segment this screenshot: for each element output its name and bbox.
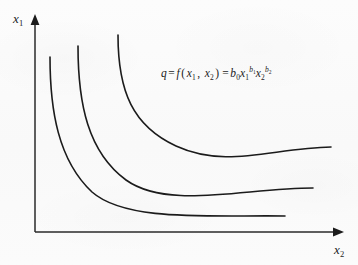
equation-q: q (161, 67, 167, 79)
equation-term2-exponent: b2 (265, 65, 272, 74)
isoquant-figure: x1 x2 q=f(x1, x2)=b0x1b1x2b2 (0, 0, 358, 265)
equation-annotation: q=f(x1, x2)=b0x1b1x2b2 (161, 68, 272, 80)
equation-term1-exponent: b1 (249, 65, 256, 74)
equation-coefficient-subscript: 0 (236, 73, 240, 82)
y-axis-label-variable: x (13, 11, 19, 26)
equation-term1-exponent-subscript: 1 (253, 69, 256, 75)
equation-paren-close: ) (214, 67, 221, 79)
y-axis-label-subscript: 1 (19, 18, 23, 28)
equation-equals-1: = (167, 67, 177, 79)
equation-equals-2: = (221, 67, 231, 79)
equation-comma: , (196, 67, 202, 79)
equation-term2-exponent-subscript: 2 (269, 69, 272, 75)
y-axis-label: x1 (13, 12, 23, 25)
x-axis-label: x2 (334, 243, 344, 256)
plot-canvas (0, 0, 358, 265)
x-axis-label-variable: x (334, 242, 340, 257)
y-axis-arrowhead-icon (31, 14, 40, 25)
x-axis-label-subscript: 2 (340, 249, 344, 259)
isoquant-curve-high (118, 35, 331, 157)
x-axis-arrowhead-icon (333, 228, 344, 237)
equation-arg2-subscript: 2 (210, 73, 214, 82)
equation-paren-open: ( (180, 67, 187, 79)
equation-arg1-subscript: 1 (192, 73, 196, 82)
